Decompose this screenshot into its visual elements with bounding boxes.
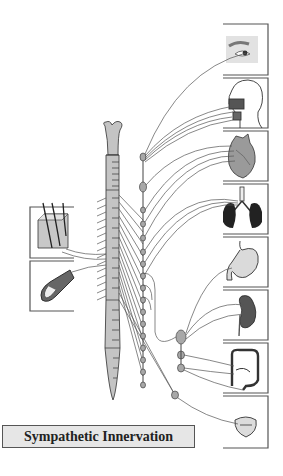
stomach-icon: [227, 241, 258, 280]
collateral-ganglia: [172, 330, 187, 399]
middle-cervical-ganglion: [140, 182, 147, 192]
skin-icon: [38, 203, 68, 248]
lungs-icon: [223, 187, 262, 228]
organ-panels: [223, 24, 268, 448]
intestines-icon: [232, 350, 258, 390]
preganglionic-fibers: [119, 195, 175, 395]
spinal-cord: [97, 121, 122, 400]
diagram-title: Sympathetic Innervation: [2, 425, 195, 448]
sympathetic-innervation-diagram: [0, 0, 283, 476]
bladder-icon: [235, 417, 256, 437]
spinal-roots-left: [97, 198, 106, 300]
celiac-ganglion: [176, 330, 186, 344]
eye-icon: [226, 36, 258, 63]
pelvic-ganglion: [172, 391, 179, 399]
inferior-mesenteric-ganglion: [178, 364, 185, 372]
head-icon: [229, 80, 263, 128]
blood-vessel-icon: [41, 270, 74, 301]
kidney-icon: [239, 296, 256, 336]
